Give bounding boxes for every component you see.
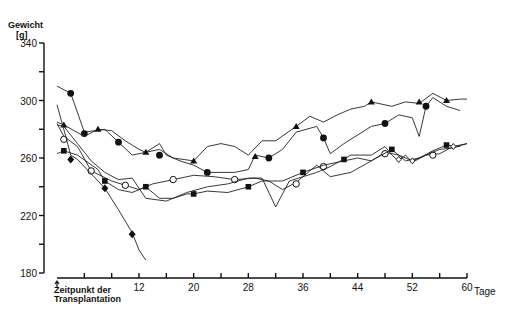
filled-square-marker-icon bbox=[143, 184, 149, 190]
weight-line-chart: Gewicht [g] 1802202603003401220283644526… bbox=[0, 0, 510, 315]
y-tick-label: 220 bbox=[20, 211, 37, 222]
filled-square-marker-icon bbox=[191, 191, 197, 197]
filled-square-marker-icon bbox=[61, 148, 67, 154]
filled-square-marker-icon bbox=[389, 147, 395, 153]
filled-circle-marker-icon bbox=[204, 169, 211, 176]
filled-circle-marker-icon bbox=[67, 90, 74, 97]
x-tick-label: 52 bbox=[407, 282, 419, 293]
open-diamond-marker-icon bbox=[396, 156, 401, 162]
filled-triangle-marker-icon bbox=[368, 98, 375, 104]
filled-square-marker-icon bbox=[246, 184, 252, 190]
y-axis-title-line1: Gewicht bbox=[8, 20, 43, 30]
x-tick-label: 60 bbox=[461, 282, 473, 293]
filled-diamond-marker-icon bbox=[129, 230, 136, 238]
filled-triangle-marker-icon bbox=[95, 126, 102, 132]
filled-square-marker-icon bbox=[300, 170, 306, 176]
x-tick-label: 36 bbox=[297, 282, 309, 293]
x-axis-unit: Tage bbox=[474, 286, 496, 297]
open-circle-marker-icon bbox=[293, 181, 299, 187]
series-line bbox=[57, 145, 460, 198]
filled-triangle-marker-icon bbox=[293, 123, 300, 129]
y-tick-label: 300 bbox=[20, 96, 37, 107]
series-open-diamond-zigzag bbox=[57, 125, 467, 207]
x-tick-label: 44 bbox=[352, 282, 364, 293]
x-tick-label: 28 bbox=[243, 282, 255, 293]
filled-circle-marker-icon bbox=[320, 134, 327, 141]
series-filled-circle-upper bbox=[57, 86, 460, 176]
filled-circle-marker-icon bbox=[115, 139, 122, 146]
x-tick-label: 12 bbox=[133, 282, 145, 293]
open-circle-marker-icon bbox=[170, 176, 176, 182]
open-diamond-marker-icon bbox=[451, 144, 456, 150]
y-tick-label: 180 bbox=[20, 268, 37, 279]
filled-square-marker-icon bbox=[102, 178, 108, 184]
open-circle-marker-icon bbox=[122, 182, 128, 188]
y-tick-label: 340 bbox=[20, 38, 37, 49]
annotation-line2: Transplantation bbox=[54, 294, 121, 304]
filled-circle-marker-icon bbox=[382, 120, 389, 127]
filled-circle-marker-icon bbox=[156, 152, 163, 159]
series-filled-triangle bbox=[57, 93, 467, 163]
filled-circle-marker-icon bbox=[265, 155, 272, 162]
x-tick-label: 20 bbox=[188, 282, 200, 293]
filled-circle-marker-icon bbox=[423, 103, 430, 110]
series-line bbox=[57, 93, 467, 161]
series-filled-square bbox=[57, 142, 460, 198]
data-series bbox=[57, 86, 467, 260]
series-line bbox=[57, 125, 467, 207]
filled-square-marker-icon bbox=[444, 142, 450, 148]
y-tick-label: 260 bbox=[20, 153, 37, 164]
